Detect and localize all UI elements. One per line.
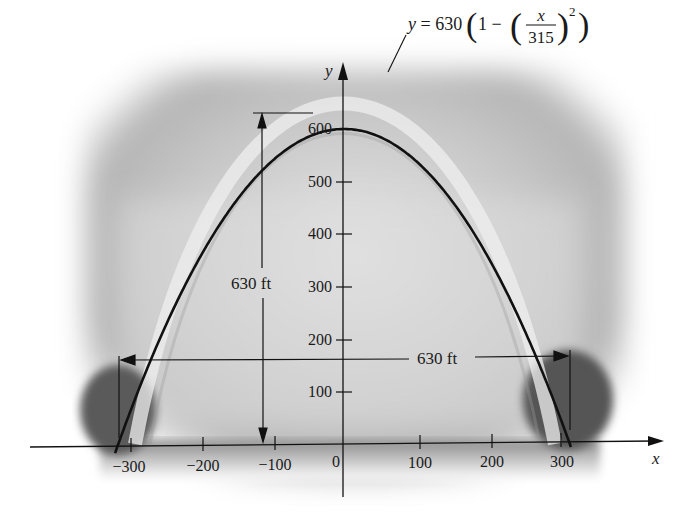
figure-canvas: −300 −200 −100 0 100 200 300 100 200 300… bbox=[0, 0, 688, 523]
y-tick-label: 400 bbox=[308, 225, 332, 242]
equation-leader-line bbox=[388, 35, 406, 72]
equation-denominator: 315 bbox=[528, 28, 554, 47]
x-tick-label: −200 bbox=[186, 457, 219, 474]
inner-open-paren: ( bbox=[510, 6, 522, 46]
svg-text:y = 630: y = 630 bbox=[406, 14, 462, 34]
width-dimension-label: 630 ft bbox=[417, 349, 457, 368]
inner-close-paren: ) bbox=[557, 6, 569, 46]
y-tick-label: 600 bbox=[308, 120, 332, 137]
x-tick-label: 200 bbox=[480, 453, 504, 470]
x-tick-label: 100 bbox=[408, 454, 432, 471]
y-tick-label: 500 bbox=[308, 173, 332, 190]
y-tick-label: 200 bbox=[308, 331, 332, 348]
x-tick-label: −300 bbox=[112, 458, 145, 475]
arch-parabola-figure: −300 −200 −100 0 100 200 300 100 200 300… bbox=[0, 0, 688, 523]
y-axis-label: y bbox=[323, 61, 333, 80]
x-axis-arrow-icon bbox=[648, 436, 664, 446]
equation-numerator: x bbox=[536, 6, 545, 25]
open-paren: ( bbox=[466, 6, 477, 44]
close-paren: ) bbox=[578, 6, 589, 44]
y-tick-label: 100 bbox=[308, 383, 332, 400]
height-dimension-label: 630 ft bbox=[231, 274, 271, 293]
x-tick-label: −100 bbox=[258, 456, 291, 473]
x-axis-label: x bbox=[651, 449, 660, 468]
x-tick-label: 300 bbox=[550, 453, 574, 470]
equation-exponent: 2 bbox=[569, 4, 576, 19]
x-tick-label: 0 bbox=[332, 453, 340, 470]
equation-label: y = 630 ( 1 − ( x 315 ) 2 ) bbox=[406, 4, 589, 47]
equation-one: 1 − bbox=[478, 14, 502, 34]
y-tick-label: 300 bbox=[308, 278, 332, 295]
